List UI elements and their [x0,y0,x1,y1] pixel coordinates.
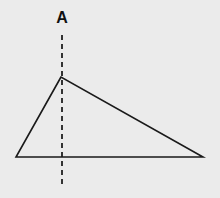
triangle [16,77,203,157]
diagram-canvas: A [0,0,220,198]
axis-label: A [56,9,68,26]
